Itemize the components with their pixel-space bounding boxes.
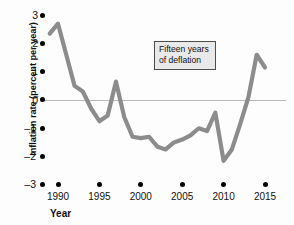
annotation-line-1: Fifteen years xyxy=(159,44,212,55)
x-tick-dot-2015 xyxy=(263,182,268,187)
deflation-annotation: Fifteen years of deflation xyxy=(154,41,216,70)
y-tick-dot-neg2 xyxy=(40,154,45,159)
x-axis-title: Year xyxy=(50,208,71,219)
y-tick-label-3: 3 xyxy=(20,9,38,21)
y-tick-label-2: 2 xyxy=(20,37,38,49)
annotation-line-2: of deflation xyxy=(159,55,212,66)
x-tick-label-2005: 2005 xyxy=(162,191,202,202)
y-tick-dot-2 xyxy=(40,41,45,46)
y-tick-label-neg3: –3 xyxy=(18,178,36,190)
y-tick-dot-3 xyxy=(40,13,45,18)
x-tick-dot-1990 xyxy=(56,182,61,187)
y-tick-label-neg2: –2 xyxy=(18,150,36,162)
x-tick-label-2010: 2010 xyxy=(204,191,244,202)
y-tick-label-0: 0 xyxy=(20,94,38,106)
x-tick-label-2000: 2000 xyxy=(121,191,161,202)
y-tick-label-neg1: –1 xyxy=(18,122,36,134)
y-tick-dot-neg1 xyxy=(40,126,45,131)
x-tick-label-2015: 2015 xyxy=(245,191,285,202)
y-tick-label-1: 1 xyxy=(20,65,38,77)
x-tick-label-1990: 1990 xyxy=(38,191,78,202)
inflation-rate-chart: Inflation rate (percent per year) 3 2 1 … xyxy=(0,0,294,225)
x-tick-label-1995: 1995 xyxy=(79,191,119,202)
